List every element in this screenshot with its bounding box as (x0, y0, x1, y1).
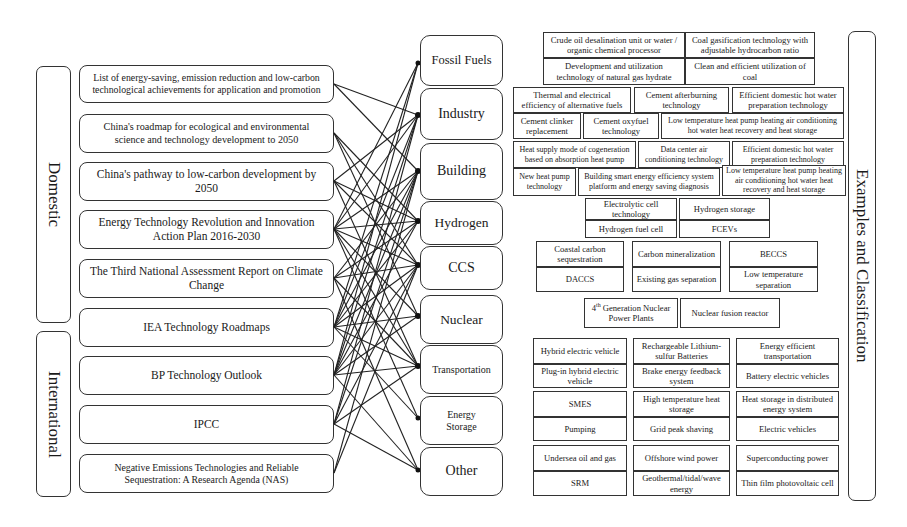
example-label: Cement afterburning technology (638, 90, 725, 111)
example-label: Existing gas separation (637, 274, 717, 284)
example-label: Battery electric vehicles (746, 371, 829, 381)
example-label: Plug-in hybrid electric vehicle (537, 366, 623, 387)
example-label: Hybrid electric vehicle (541, 346, 620, 356)
example-label: Offshore wind power (645, 453, 718, 463)
category-label: Hydrogen (435, 215, 489, 231)
example-label: Cement oxyfuel technology (587, 116, 655, 137)
example-label: Grid peak shaving (650, 424, 713, 434)
category-hydrogen: Hydrogen (420, 201, 503, 245)
category-label: Industry (438, 106, 485, 122)
example-box: Thin film photovoltaic cell (736, 471, 839, 496)
example-label: Thin film photovoltaic cell (741, 478, 833, 488)
example-box: Low temperature separation (729, 267, 818, 292)
example-box: Coastal carbon sequestration (536, 241, 624, 267)
example-label: High temperature heat storage (637, 394, 726, 415)
category-building: Building (420, 143, 503, 200)
example-box: Building smart energy efficiency system … (578, 168, 720, 196)
category-label: CCS (448, 260, 474, 276)
example-label: Heat supply mode of cogeneration based o… (517, 145, 632, 164)
example-box: Heat storage in distributed energy syste… (736, 391, 839, 417)
example-box: Cement oxyfuel technology (583, 113, 659, 139)
category-fossil-fuels: Fossil Fuels (420, 35, 503, 86)
example-box: Battery electric vehicles (736, 364, 839, 388)
example-label: BECCS (760, 249, 787, 259)
category-label: Fossil Fuels (431, 53, 491, 67)
example-label: Coastal carbon sequestration (540, 244, 620, 265)
example-box: BECCS (729, 241, 818, 267)
example-box: Hydrogen fuel cell (585, 220, 677, 238)
category-industry: Industry (420, 88, 503, 140)
example-box: Superconducting power (736, 445, 839, 471)
example-box: Existing gas separation (632, 267, 721, 292)
example-label: Carbon mineralization (638, 249, 715, 259)
example-label: SMES (569, 399, 591, 409)
example-box: New heat pump technology (513, 168, 576, 196)
example-box: Pumping (533, 417, 627, 441)
example-box: Thermal and electrical efficiency of alt… (513, 87, 631, 113)
example-box: Geothermal/tidal/wave energy (633, 471, 730, 496)
category-label: Building (437, 163, 486, 179)
category-label: Energy Storage (435, 409, 488, 432)
example-label: Undersea oil and gas (544, 453, 616, 463)
category-transportation: Transportation (420, 345, 503, 394)
example-label: New heat pump technology (517, 172, 572, 191)
example-label: Geothermal/tidal/wave energy (637, 473, 726, 494)
example-label: Efficient domestic hot water preparation… (736, 90, 840, 111)
example-box: Clean and efficient utilization of coal (685, 58, 815, 85)
example-box: Hydrogen storage (679, 198, 770, 220)
category-label: Nuclear (440, 312, 483, 328)
example-box: Cement afterburning technology (634, 87, 729, 113)
example-label: Clean and efficient utilization of coal (689, 61, 811, 82)
category-energy-storage: Energy Storage (420, 396, 503, 445)
example-box: Cement clinker replacement (513, 113, 581, 139)
example-label: Rechargeable Lithium-sulfur Batteries (637, 341, 726, 362)
example-label: Efficient domestic hot water preparation… (736, 145, 840, 164)
example-label: Nuclear fusion reactor (692, 308, 769, 318)
examples-group-label: Examples and Classification (848, 31, 876, 501)
example-label: 4th Generation Nuclear Power Plants (588, 302, 674, 323)
example-box: 4th Generation Nuclear Power Plants (584, 298, 678, 328)
example-box: Data center air conditioning technology (638, 141, 730, 168)
example-label: Hydrogen storage (694, 204, 755, 214)
example-box: SRM (533, 471, 627, 496)
example-label: Data center air conditioning technology (642, 145, 726, 164)
category-label: Transportation (432, 364, 491, 376)
category-nuclear: Nuclear (420, 295, 503, 344)
category-label: Other (446, 463, 478, 479)
example-box: Crude oil desalination unit or water / o… (543, 32, 685, 58)
example-label: DACCS (566, 274, 595, 284)
example-box: Electric vehicles (736, 417, 839, 441)
example-box: Low temperature heat pump heating air co… (661, 113, 844, 139)
example-box: Carbon mineralization (632, 241, 721, 267)
example-label: Coal gasification technology with adjust… (689, 35, 811, 56)
category-ccs: CCS (420, 246, 503, 290)
example-box: Low temperature heat pump heating air co… (722, 165, 846, 196)
example-label: Heat storage in distributed energy syste… (740, 394, 835, 415)
example-box: Electrolytic cell technology (585, 198, 677, 220)
example-box: FCEVs (679, 220, 770, 238)
category-other: Other (420, 447, 503, 496)
example-label: Low temperature heat pump heating air co… (665, 116, 840, 135)
example-box: Energy efficient transportation (736, 338, 839, 364)
example-box: Plug-in hybrid electric vehicle (533, 364, 627, 388)
examples-label: Examples and Classification (852, 169, 872, 363)
example-box: Rechargeable Lithium-sulfur Batteries (633, 338, 730, 364)
example-box: Nuclear fusion reactor (680, 298, 780, 328)
example-box: Brake energy feedback system (633, 364, 730, 388)
example-box: Efficient domestic hot water preparation… (732, 87, 844, 113)
example-label: Pumping (564, 424, 595, 434)
example-label: Electric vehicles (759, 424, 816, 434)
example-box: SMES (533, 391, 627, 417)
example-label: Superconducting power (747, 453, 829, 463)
example-box: High temperature heat storage (633, 391, 730, 417)
example-box: Hybrid electric vehicle (533, 338, 627, 364)
example-label: Energy efficient transportation (740, 341, 835, 362)
example-box: Heat supply mode of cogeneration based o… (513, 141, 636, 168)
example-box: Undersea oil and gas (533, 445, 627, 471)
example-label: SRM (571, 478, 589, 488)
example-box: Offshore wind power (633, 445, 730, 471)
example-label: Development and utilization technology o… (547, 61, 681, 82)
example-label: Hydrogen fuel cell (599, 224, 663, 234)
example-label: Low temperature heat pump heating air co… (726, 166, 842, 195)
example-box: Coal gasification technology with adjust… (685, 32, 815, 58)
